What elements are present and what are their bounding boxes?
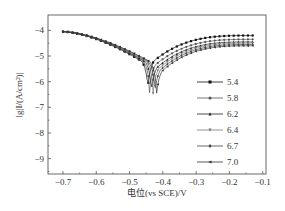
legend-item-5.4: 5.4 [197, 77, 239, 87]
legend-item-6.4: 6.4 [197, 125, 239, 135]
legend-label: 5.4 [227, 77, 239, 87]
y-axis-title: lg|I/(A/cm²)| [14, 72, 24, 117]
legend-item-5.8: 5.8 [197, 93, 239, 103]
x-tick-label: −0.7 [55, 177, 72, 187]
x-axis-title: 电位(vs SCE)/V [127, 187, 187, 198]
legend-label: 6.4 [227, 125, 239, 135]
legend-label: 6.2 [227, 109, 238, 119]
x-tick-label: −0.1 [255, 177, 271, 187]
x-tick-label: −0.4 [155, 177, 172, 187]
legend-item-7.0: 7.0 [197, 157, 239, 167]
legend: 5.45.86.26.46.77.0 [197, 77, 239, 167]
y-tick-label: −4 [34, 25, 44, 35]
legend-label: 5.8 [227, 93, 239, 103]
y-tick-label: −5 [34, 51, 44, 61]
x-tick-label: −0.3 [188, 177, 205, 187]
data-curves [62, 30, 254, 94]
x-tick-label: −0.5 [121, 177, 138, 187]
y-axis: −4−5−6−7−8−9 [34, 25, 51, 171]
x-axis: −0.7−0.6−0.5−0.4−0.3−0.2−0.1 [55, 171, 271, 187]
legend-label: 6.7 [227, 141, 239, 151]
y-tick-label: −6 [34, 77, 44, 87]
y-tick-label: −8 [34, 128, 44, 138]
legend-item-6.7: 6.7 [197, 141, 239, 151]
x-tick-label: −0.2 [221, 177, 237, 187]
y-tick-label: −9 [34, 154, 44, 164]
polarization-chart: −0.7−0.6−0.5−0.4−0.3−0.2−0.1 −4−5−6−7−8−… [0, 0, 285, 211]
legend-label: 7.0 [227, 157, 239, 167]
legend-item-6.2: 6.2 [197, 109, 238, 119]
x-tick-label: −0.6 [88, 177, 105, 187]
y-tick-label: −7 [34, 102, 44, 112]
